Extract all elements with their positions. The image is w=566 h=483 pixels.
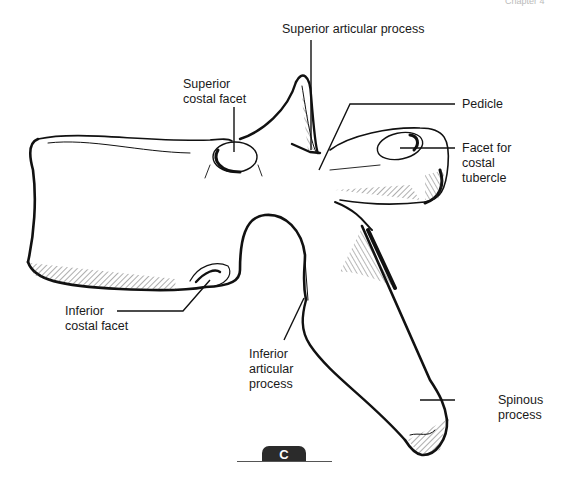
label-spinous-process: Spinous process — [498, 393, 543, 423]
badge-underline — [237, 461, 332, 462]
label-inferior-articular-process: Inferior articular process — [249, 347, 293, 392]
label-pedicle: Pedicle — [462, 97, 503, 112]
vertebra-illustration — [0, 0, 566, 483]
label-inferior-costal-facet: Inferior costal facet — [65, 304, 128, 334]
label-superior-articular-process: Superior articular process — [282, 22, 424, 37]
label-facet-for-costal-tubercle: Facet for costal tubercle — [462, 141, 511, 186]
leader-inferior-articular — [284, 298, 304, 340]
panel-letter-badge: C — [262, 446, 306, 462]
label-superior-costal-facet: Superior costal facet — [183, 77, 246, 107]
figure-page: Chapter 4 — [0, 0, 566, 483]
